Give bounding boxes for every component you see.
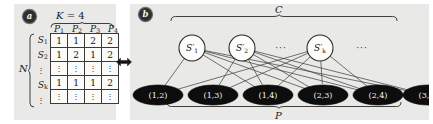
table-row: ⋮ ⋮ ⋮ ⋮: [51, 62, 119, 76]
k-equals: =: [63, 10, 78, 21]
row-label: Sk: [33, 78, 48, 93]
graph-edge: [205, 51, 368, 92]
matrix-cell-ellipsis: ⋮: [85, 62, 102, 76]
row-label: S2: [33, 48, 48, 63]
matrix-cell: 2: [68, 48, 85, 62]
table-row: 1 1 2 2: [51, 34, 119, 48]
matrix-row-labels: S1 S2 ⋮ Sk ⋮: [33, 33, 48, 108]
matrix-cell: 1: [51, 76, 68, 90]
matrix-cell-ellipsis: ⋮: [51, 90, 68, 104]
matrix-cell: 1: [51, 34, 68, 48]
matrix-cell: 1: [85, 76, 102, 90]
matrix-cell-ellipsis: ⋮: [102, 90, 119, 104]
pair-node-label: (1,3): [204, 91, 223, 100]
figure-root: a b K = 4 P1 P2 P3 P4 S1 S2 ⋮ Sk ⋮ N 1 1…: [0, 0, 433, 124]
graph-edge: [219, 59, 235, 86]
table-row: 1 1 1 2: [51, 76, 119, 90]
matrix-cell: 1: [68, 76, 85, 90]
panel-a-badge: a: [23, 10, 36, 23]
graph-edge: [203, 55, 259, 89]
k-value: 4: [78, 10, 84, 21]
n-left-brace: [28, 33, 35, 108]
n-dimension-label: N: [19, 63, 28, 74]
graph-edge: [330, 56, 369, 88]
graph-edge: [164, 59, 184, 87]
row-label: S1: [33, 33, 48, 48]
matrix-cell: 2: [85, 34, 102, 48]
matrix-cell-ellipsis: ⋮: [51, 62, 68, 76]
matrix-cell: 1: [51, 48, 68, 62]
matrix-cell: 2: [102, 76, 119, 90]
bipartite-graph: S′1S′2S′k (1,2)(1,3)(1,4)(2,3)(2,4)(3,4)…: [130, 4, 429, 120]
matrix-cell-ellipsis: ⋮: [85, 90, 102, 104]
row-label-ellipsis: ⋮: [33, 93, 48, 108]
matrix-cell-ellipsis: ⋮: [68, 90, 85, 104]
matrix-cell: 1: [68, 34, 85, 48]
k-dimension-label: K = 4: [56, 10, 85, 21]
matrix-cell: 2: [102, 34, 119, 48]
graph-bottom-nodes: (1,2)(1,3)(1,4)(2,3)(2,4)(3,4): [133, 85, 429, 105]
table-row: 1 2 1 2: [51, 48, 119, 62]
matrix-cell: 1: [85, 48, 102, 62]
matrix-table: 1 1 2 2 1 2 1 2 ⋮ ⋮ ⋮ ⋮ 1: [50, 33, 119, 104]
pair-node-label: (3,4): [419, 91, 429, 100]
sequence-position-matrix: 1 1 2 2 1 2 1 2 ⋮ ⋮ ⋮ ⋮ 1: [50, 33, 119, 104]
matrix-cell-ellipsis: ⋮: [68, 62, 85, 76]
ellipsis-marker: ···: [356, 43, 368, 53]
pair-node-label: (2,4): [369, 91, 388, 100]
ellipsis-marker: ···: [275, 43, 287, 53]
pair-node-label: (2,3): [314, 91, 333, 100]
pair-node-label: (1,2): [149, 91, 168, 100]
pair-node-label: (1,4): [259, 91, 278, 100]
table-row: ⋮ ⋮ ⋮ ⋮: [51, 90, 119, 104]
row-label-ellipsis: ⋮: [33, 63, 48, 78]
